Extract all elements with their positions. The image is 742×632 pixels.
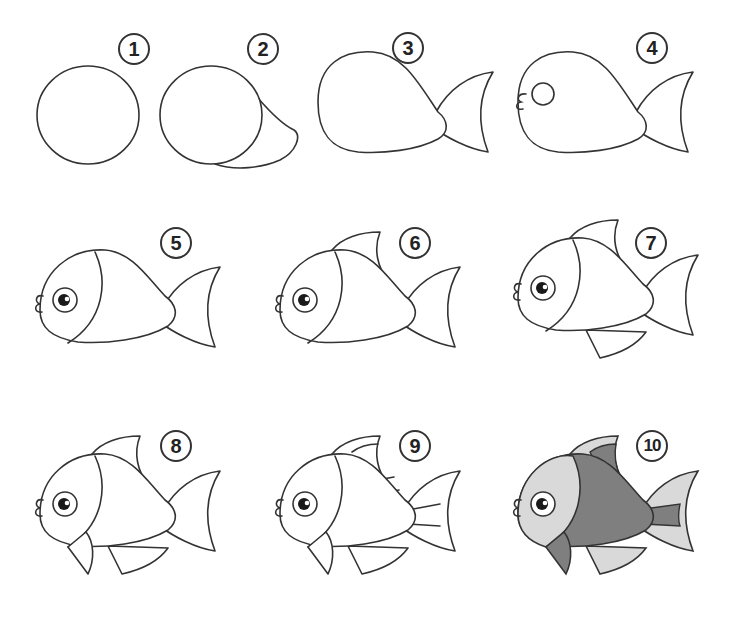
step-4-drawing — [517, 52, 693, 153]
step-8-drawing — [36, 436, 220, 574]
step-10-drawing — [514, 436, 698, 574]
step-7-drawing — [514, 220, 698, 358]
step-6-drawing — [276, 232, 460, 347]
step-2-drawing — [160, 66, 298, 168]
step-1-drawing — [37, 66, 139, 164]
step-5-drawing — [36, 250, 220, 347]
step-9-drawing — [276, 436, 460, 574]
step-3-drawing — [318, 52, 493, 153]
drawing-tutorial-canvas: 1 2 3 4 5 6 7 8 9 10 — [0, 0, 742, 632]
fish-drawings — [0, 0, 742, 632]
